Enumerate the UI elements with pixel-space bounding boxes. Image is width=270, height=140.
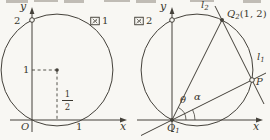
figure2-geometry bbox=[137, 6, 266, 136]
fraction-numerator: 1 bbox=[62, 90, 73, 99]
angle-alpha-label: α bbox=[194, 92, 201, 102]
fraction-denominator: 2 bbox=[62, 103, 73, 112]
point-marker-0-2-fig2 bbox=[170, 18, 175, 23]
point-q2 bbox=[220, 18, 224, 22]
point-marker-0-2 bbox=[30, 18, 35, 23]
y-tick-1-fig1: 1 bbox=[23, 65, 29, 75]
diameter-q1-q2 bbox=[172, 20, 222, 120]
x-tick-1-fig1: 1 bbox=[76, 122, 82, 132]
point-p bbox=[250, 78, 255, 83]
origin-label-fig1: O bbox=[21, 122, 29, 132]
y-axis-arrow-fig2 bbox=[170, 7, 175, 14]
line-l1-label: l1 bbox=[257, 52, 265, 64]
angle-alpha-arc bbox=[193, 110, 195, 120]
y-axis-arrow-fig1 bbox=[30, 7, 35, 14]
point-q1-label: Q1 bbox=[167, 123, 180, 135]
line-l2-label: l2 bbox=[201, 0, 209, 12]
y-tick-2-fig1: 2 bbox=[14, 16, 20, 26]
angle-theta-label: θ bbox=[180, 95, 186, 105]
angle-theta-arc bbox=[178, 107, 186, 120]
figure1-caption-number: 1 bbox=[102, 16, 108, 26]
x-axis-label-fig2: x bbox=[253, 121, 259, 132]
figure2-caption-number: 2 bbox=[146, 16, 152, 26]
fraction-bar bbox=[62, 100, 73, 101]
zu-kanji-icon bbox=[90, 16, 100, 26]
y-axis-label-fig2: y bbox=[160, 1, 166, 12]
figure1-caption: 1 bbox=[90, 16, 108, 26]
scanned-math-figure-pair: y 2 1 O 1 x 1 2 1 y 2 l2 Q2(1, 2) l1 P θ… bbox=[0, 0, 270, 140]
circle-center-point bbox=[55, 68, 59, 72]
line-l1 bbox=[141, 73, 266, 136]
x-axis-label-fig1: x bbox=[120, 121, 126, 132]
zu-kanji-icon bbox=[134, 16, 144, 26]
figure2-caption: 2 bbox=[134, 16, 152, 26]
y-axis-label-fig1: y bbox=[20, 1, 26, 12]
point-q2-label: Q2(1, 2) bbox=[227, 9, 267, 21]
fraction-one-half: 1 2 bbox=[62, 90, 73, 111]
point-p-label: P bbox=[256, 77, 263, 87]
